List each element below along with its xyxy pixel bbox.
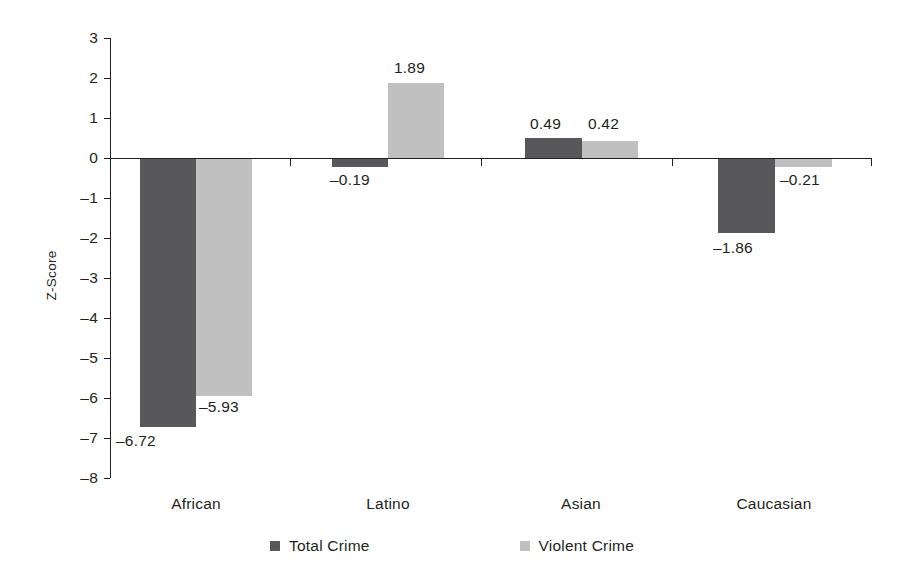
y-axis-tick — [104, 318, 110, 319]
y-axis-tick — [104, 78, 110, 79]
legend-item-violent-crime: Violent Crime — [520, 538, 634, 554]
bar-chart: 3 2 1 0 –1 –2 –3 –4 –5 –6 –7 –8 Z-Score … — [0, 0, 904, 581]
x-axis-category-label-asian: Asian — [521, 496, 641, 512]
bar-african-total-crime — [140, 159, 196, 427]
bar-value-label-asian-violent: 0.42 — [588, 116, 619, 132]
y-axis-tick — [104, 38, 110, 39]
y-axis-tick-label: –5 — [58, 350, 98, 366]
bar-value-label-african-total: –6.72 — [116, 433, 156, 449]
legend-swatch-icon-total-crime — [270, 541, 280, 551]
bar-latino-violent-crime — [388, 83, 444, 158]
y-axis-line — [110, 38, 111, 478]
x-axis-tick — [871, 159, 872, 166]
x-axis-tick — [481, 159, 482, 166]
y-axis-tick-label: –8 — [58, 470, 98, 486]
y-axis-tick-label: 0 — [58, 150, 98, 166]
y-axis-tick-label: –2 — [58, 230, 98, 246]
y-axis-tick-label: 3 — [58, 30, 98, 46]
y-axis-tick-label: 1 — [58, 110, 98, 126]
bar-caucasian-violent-crime — [775, 159, 832, 167]
x-axis-tick — [672, 159, 673, 166]
y-axis-tick-label: –1 — [58, 190, 98, 206]
y-axis-tick — [104, 198, 110, 199]
y-axis-tick — [104, 438, 110, 439]
y-axis-tick — [104, 398, 110, 399]
y-axis-tick — [104, 478, 110, 479]
y-axis-tick-label: 2 — [58, 70, 98, 86]
y-axis-tick-label: –4 — [58, 310, 98, 326]
bar-african-violent-crime — [196, 159, 252, 396]
y-axis-tick — [104, 238, 110, 239]
bar-asian-total-crime — [525, 138, 582, 158]
bar-latino-total-crime — [332, 159, 388, 167]
bar-value-label-latino-total: –0.19 — [330, 172, 370, 188]
bar-caucasian-total-crime — [718, 159, 775, 233]
bar-value-label-caucasian-total: –1.86 — [713, 240, 753, 256]
bar-value-label-asian-total: 0.49 — [530, 116, 561, 132]
x-axis-category-label-caucasian: Caucasian — [714, 496, 834, 512]
bar-value-label-latino-violent: 1.89 — [394, 60, 425, 76]
y-axis-tick — [104, 278, 110, 279]
x-axis-category-label-latino: Latino — [328, 496, 448, 512]
legend-label-violent-crime: Violent Crime — [539, 538, 634, 554]
x-axis-category-label-african: African — [136, 496, 256, 512]
legend-label-total-crime: Total Crime — [289, 538, 370, 554]
legend-swatch-icon-violent-crime — [520, 541, 530, 551]
y-axis-title: Z-Score — [44, 216, 59, 336]
chart-legend: Total Crime Violent Crime — [0, 538, 904, 554]
bar-value-label-caucasian-violent: –0.21 — [780, 172, 820, 188]
bar-asian-violent-crime — [582, 141, 638, 158]
y-axis-tick-label: –7 — [58, 430, 98, 446]
legend-item-total-crime: Total Crime — [270, 538, 370, 554]
y-axis-tick — [104, 118, 110, 119]
y-axis-tick — [104, 358, 110, 359]
y-axis-tick-label: –3 — [58, 270, 98, 286]
bar-value-label-african-violent: –5.93 — [199, 399, 239, 415]
x-axis-tick — [290, 159, 291, 166]
y-axis-tick-label: –6 — [58, 390, 98, 406]
